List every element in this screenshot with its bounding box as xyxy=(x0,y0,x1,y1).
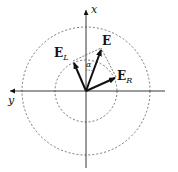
angle-arc xyxy=(86,70,93,71)
vector-label-E: E xyxy=(102,34,111,48)
x-axis-label: x xyxy=(91,3,98,16)
y-axis-label: y xyxy=(7,94,15,107)
polarization-diagram: x y EL E ER α xyxy=(0,0,178,172)
vector-label-E-L: EL xyxy=(54,46,68,62)
dashed-guide-right xyxy=(101,48,116,77)
angle-label-alpha: α xyxy=(86,60,92,69)
vector-E-L xyxy=(74,63,86,91)
vector-label-E-R: ER xyxy=(117,69,132,85)
